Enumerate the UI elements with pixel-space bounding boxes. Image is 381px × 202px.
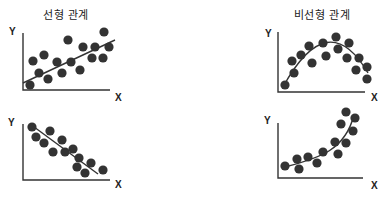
- data-point: [98, 53, 107, 62]
- data-point: [287, 56, 296, 65]
- data-point: [294, 164, 303, 173]
- data-point: [87, 53, 96, 62]
- data-point: [312, 158, 321, 167]
- data-point: [99, 27, 108, 36]
- panel-linear-negative: YX: [8, 117, 122, 190]
- data-point: [362, 74, 371, 83]
- data-point: [39, 50, 48, 59]
- data-point: [98, 165, 107, 174]
- data-point: [31, 132, 40, 141]
- panel-nonlinear-exponential: YX: [264, 107, 378, 191]
- y-axis-label: Y: [265, 28, 272, 39]
- data-point: [80, 168, 89, 177]
- data-point: [45, 126, 54, 135]
- data-point: [57, 68, 66, 77]
- y-axis-label: Y: [8, 117, 15, 128]
- data-point: [331, 32, 340, 41]
- data-point: [57, 135, 66, 144]
- data-point: [63, 35, 72, 44]
- data-point: [342, 53, 351, 62]
- data-point: [341, 107, 350, 116]
- x-axis-label: X: [371, 180, 378, 191]
- data-point: [75, 65, 84, 74]
- x-axis-label: X: [115, 92, 122, 103]
- data-point: [333, 44, 342, 53]
- data-point: [78, 42, 87, 51]
- data-point: [341, 138, 350, 147]
- data-point: [296, 50, 305, 59]
- trend-line: [30, 124, 98, 174]
- data-point: [307, 58, 316, 67]
- data-point: [333, 149, 342, 158]
- data-point: [330, 137, 339, 146]
- x-axis-label: X: [115, 179, 122, 190]
- data-point: [354, 53, 363, 62]
- data-point: [48, 147, 57, 156]
- panel-nonlinear-arch: YX: [265, 28, 378, 103]
- data-point: [280, 80, 289, 89]
- panel-linear-positive: YX: [9, 26, 122, 103]
- relationship-diagrams: YXYXYXYX: [0, 0, 381, 202]
- data-point: [72, 162, 81, 171]
- x-axis-label: X: [371, 92, 378, 103]
- data-point: [351, 65, 360, 74]
- data-point: [321, 51, 330, 60]
- data-point: [43, 74, 52, 83]
- y-axis-label: Y: [9, 26, 16, 37]
- data-point: [39, 138, 48, 147]
- data-point: [68, 144, 77, 153]
- data-point: [28, 56, 37, 65]
- data-point: [336, 119, 345, 128]
- y-axis-label: Y: [264, 115, 271, 126]
- trend-line: [283, 42, 368, 87]
